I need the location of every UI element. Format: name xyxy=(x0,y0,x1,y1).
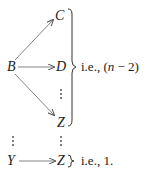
node-b: B xyxy=(7,60,16,74)
node-y: Y xyxy=(7,154,15,168)
vertical-ellipsis-right xyxy=(60,136,62,146)
node-c: C xyxy=(55,9,64,23)
node-z-bottom: Z xyxy=(57,154,65,168)
group-annotation: i.e., (n − 2) xyxy=(81,60,139,74)
group-annotation-prefix: i.e., ( xyxy=(81,59,108,74)
right-brace-large xyxy=(68,9,76,126)
right-brace-small xyxy=(68,155,74,167)
arrow-b-to-c xyxy=(15,20,53,60)
arrow-b-to-z xyxy=(15,74,54,115)
group-annotation-suffix: − 2) xyxy=(114,59,139,74)
node-z-top: Z xyxy=(57,116,65,130)
vertical-ellipsis-left xyxy=(12,136,14,146)
single-annotation: i.e., 1. xyxy=(81,154,113,168)
diagram-canvas xyxy=(0,0,154,171)
vertical-ellipsis-column-d xyxy=(60,89,62,99)
node-d: D xyxy=(56,60,66,74)
